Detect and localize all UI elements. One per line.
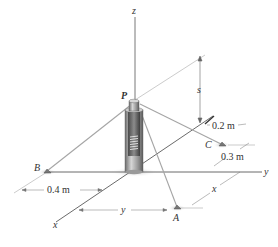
dimension-x-label: x [211, 183, 217, 194]
point-a-label: A [172, 212, 180, 223]
dimension-0-3m-label: 0.3 m [221, 151, 244, 162]
pole-cable-diagram: z y x P B C A s 0.2 m 0.3 m 0.4 m y x [0, 0, 278, 247]
point-b-label: B [34, 162, 40, 173]
construction-line-p [135, 55, 205, 100]
dimension-s-label: s [197, 84, 201, 95]
cable-pb [47, 104, 132, 171]
point-c-label: C [205, 139, 212, 150]
y-axis-label: y [263, 166, 269, 177]
x-axis-label: x [52, 219, 58, 230]
spring-cylinder [125, 99, 143, 174]
dimension-y-label: y [120, 204, 126, 215]
cable-pa [140, 110, 177, 207]
dimension-0-2m-label: 0.2 m [212, 120, 235, 131]
point-p-label: P [121, 90, 128, 101]
dimension-0-4m-label: 0.4 m [47, 184, 70, 195]
z-axis-label: z [131, 5, 136, 16]
